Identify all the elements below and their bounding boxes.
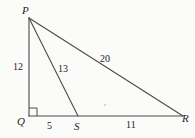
geometry-figure: P Q S R 12 13 20 5 11 xyxy=(0,0,195,138)
vertex-label-S: S xyxy=(74,121,80,132)
segment-PS xyxy=(29,18,78,116)
vertex-label-P: P xyxy=(22,5,29,16)
segment-PR xyxy=(29,18,183,116)
figure-canvas xyxy=(0,0,195,138)
right-angle-marker-Q xyxy=(29,108,37,116)
side-length-label-PQ: 12 xyxy=(13,62,23,72)
vertex-label-Q: Q xyxy=(17,116,25,127)
scan-speck xyxy=(104,104,106,106)
side-length-label-SR: 11 xyxy=(126,120,136,130)
side-length-label-PS: 13 xyxy=(58,64,68,74)
side-length-label-QS: 5 xyxy=(47,121,52,131)
side-length-label-PR: 20 xyxy=(100,54,110,64)
vertex-label-R: R xyxy=(182,113,189,124)
